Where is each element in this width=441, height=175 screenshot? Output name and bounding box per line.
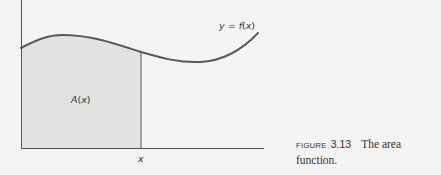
x-tick-label: x: [137, 153, 144, 164]
shaded-area-region: [21, 35, 141, 148]
area-function-figure: y = f(x) A(x) x Figure 3.13 The area fun…: [0, 0, 441, 175]
curve-label: y = f(x): [218, 20, 255, 31]
caption-figure-number: 3.13: [331, 138, 351, 150]
area-label: A(x): [70, 94, 91, 105]
caption-figure-word: Figure: [296, 141, 327, 150]
figure-caption: Figure 3.13 The area function.: [296, 136, 436, 167]
